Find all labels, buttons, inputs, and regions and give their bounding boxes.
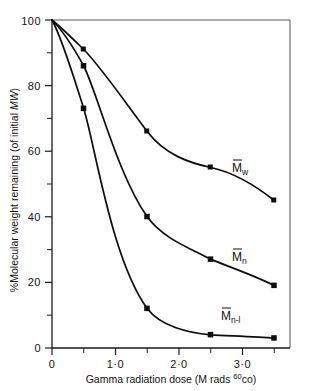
svg-text:Mn-l: Mn-l: [221, 309, 241, 325]
x-tick-label-2: 2·0: [170, 358, 187, 370]
chart-figure: 0 20 40 60 80 100 0 1·0 2·0 3·0 Gamma ra…: [0, 0, 312, 391]
y-tick-label-20: 20: [28, 276, 41, 288]
series-label-mn-base: M: [232, 250, 242, 264]
series-label-mw-base: M: [232, 161, 242, 175]
series-markers-mn-1: [81, 106, 277, 341]
x-axis-title-main: Gamma radiation dose (M rads: [86, 373, 234, 385]
y-tick-label-60: 60: [28, 145, 41, 157]
x-axis-title: Gamma radiation dose (M rads 60co): [86, 372, 257, 385]
series-label-mw: Mw: [232, 160, 249, 177]
x-tick-label-3: 3·0: [234, 358, 251, 370]
y-axis-minor-ticks: [47, 53, 52, 315]
series-label-mn-sub: n: [242, 256, 247, 266]
series-label-mw-sub: w: [241, 167, 249, 177]
y-axis-title-main: %Molecular weight remaining (of initial: [8, 110, 20, 292]
x-axis-title-tail: co): [242, 373, 257, 385]
series-label-mn-1-base: M: [221, 309, 231, 323]
series-markers-mw: [81, 47, 277, 203]
y-axis-title-tail: ): [8, 88, 20, 92]
svg-text:Mw: Mw: [232, 161, 249, 177]
degradation-line-chart: 0 20 40 60 80 100 0 1·0 2·0 3·0 Gamma ra…: [0, 0, 312, 391]
x-tick-label-0: 0: [49, 358, 56, 370]
series-label-mn-1-sub: n-l: [231, 315, 241, 325]
series-label-mn-1: Mn-l: [221, 308, 241, 325]
y-tick-label-40: 40: [28, 211, 41, 223]
plot-axes: [52, 20, 290, 348]
plot-frame: [52, 20, 290, 348]
series-curve-mn: [52, 20, 274, 286]
y-tick-label-80: 80: [28, 80, 41, 92]
svg-text:Mn: Mn: [232, 250, 247, 266]
series-label-mn: Mn: [232, 249, 247, 266]
y-tick-label-0: 0: [34, 342, 41, 354]
y-axis-title-italic: MW: [8, 90, 20, 110]
x-axis-title-superscript: 60: [233, 372, 241, 381]
y-tick-label-100: 100: [21, 15, 41, 27]
y-axis-title: %Molecular weight remaining (of initial …: [8, 88, 20, 292]
x-tick-label-1: 1·0: [107, 358, 124, 370]
